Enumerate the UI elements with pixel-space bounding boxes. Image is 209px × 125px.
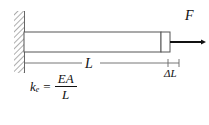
- formula-equals: =: [43, 80, 50, 93]
- formula-denominator: L: [59, 87, 72, 101]
- fixed-support-wall: [14, 11, 25, 73]
- elongation-label: ΔL: [164, 68, 177, 79]
- formula-numerator: EA: [55, 72, 77, 86]
- diagram-canvas: [0, 0, 209, 125]
- stiffness-formula: ke = EA L: [30, 72, 77, 101]
- bar-end-block: [161, 32, 170, 52]
- elastic-bar: [24, 32, 161, 52]
- formula-subscript: e: [36, 86, 40, 94]
- formula-fraction: EA L: [55, 72, 77, 101]
- length-label: L: [85, 57, 93, 71]
- dimension-line-delta-L: [168, 59, 179, 67]
- figure-container: F L ΔL ke = EA L: [0, 0, 209, 125]
- force-label: F: [185, 9, 194, 23]
- force-arrow: [170, 40, 206, 45]
- dimension-line-L: [24, 58, 168, 68]
